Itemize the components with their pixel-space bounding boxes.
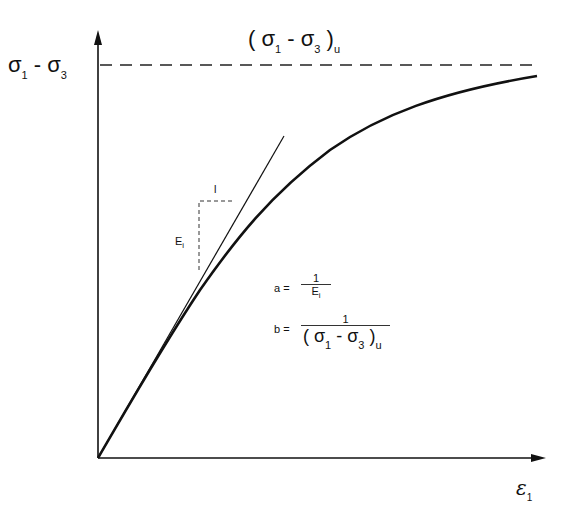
subscript-i: i: [182, 241, 184, 250]
subscript-3: 3: [314, 43, 320, 55]
sigma3-symbol: σ: [301, 26, 315, 51]
stress-strain-curve: [98, 76, 537, 458]
formula-b-denominator: ( σ1 - σ3 )u: [301, 326, 390, 347]
y-axis-label: σ1 - σ3: [8, 52, 67, 78]
formula-b-fraction: 1 ( σ1 - σ3 )u: [301, 313, 390, 347]
minus-sign: -: [331, 326, 347, 346]
formula-a-lhs: a =: [274, 282, 290, 294]
y-axis-arrow-icon: [94, 30, 102, 45]
subscript-i: i: [319, 291, 321, 300]
subscript-1: 1: [22, 69, 28, 81]
slope-triangle: [199, 201, 233, 270]
subscript-3: 3: [61, 69, 67, 81]
slope-run-label: l: [214, 183, 216, 195]
epsilon-symbol: ε: [516, 476, 527, 500]
sigma1-symbol: σ: [8, 52, 22, 77]
formula-b-lhs: b =: [274, 323, 290, 335]
formula-b-numerator: 1: [301, 313, 390, 325]
open-paren: (: [303, 326, 314, 346]
sigma1-symbol: σ: [314, 326, 325, 346]
sigma1-symbol: σ: [261, 26, 275, 51]
formula-a-numerator: 1: [301, 272, 331, 284]
asymptote-label: ( σ1 - σ3 )u: [248, 26, 340, 52]
subscript-3: 3: [358, 339, 364, 351]
subscript-u: u: [334, 43, 340, 55]
close-paren: ): [364, 326, 375, 346]
stress-strain-diagram: σ1 - σ3 ( σ1 - σ3 )u l Ei a = 1 Ei b = 1…: [0, 0, 565, 516]
slope-rise-label: Ei: [175, 235, 184, 247]
subscript-u: u: [375, 339, 381, 351]
subscript-1: 1: [527, 492, 533, 503]
sigma3-symbol: σ: [347, 326, 358, 346]
x-axis-arrow-icon: [531, 454, 546, 462]
ei-symbol: E: [311, 285, 318, 297]
minus-sign: -: [28, 52, 48, 77]
formula-a-fraction: 1 Ei: [301, 272, 331, 297]
x-axis-label: ε1: [516, 476, 532, 500]
formula-a-denominator: Ei: [301, 285, 331, 297]
minus-sign: -: [281, 26, 301, 51]
close-paren: ): [320, 26, 333, 51]
subscript-1: 1: [275, 43, 281, 55]
subscript-1: 1: [325, 339, 331, 351]
open-paren: (: [248, 26, 261, 51]
sigma3-symbol: σ: [47, 52, 61, 77]
diagram-canvas: [0, 0, 565, 516]
